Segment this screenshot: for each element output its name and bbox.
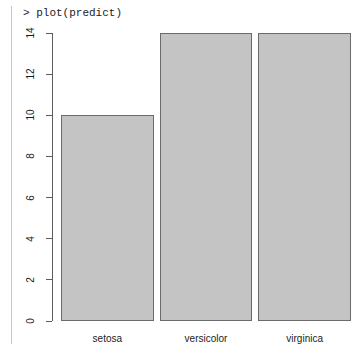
x-axis-category-label: setosa xyxy=(61,333,154,344)
bar-chart: 02468101214 setosaversicolorvirginica xyxy=(0,0,359,355)
bar xyxy=(258,33,351,321)
x-axis-category-label: virginica xyxy=(258,333,351,344)
bar xyxy=(160,33,253,321)
bar-series xyxy=(0,0,359,355)
x-axis-category-label: versicolor xyxy=(160,333,253,344)
bar xyxy=(61,115,154,321)
